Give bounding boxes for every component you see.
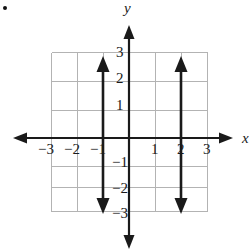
series-1-arrow-up-icon xyxy=(97,56,110,72)
y-tick-label-2: 2 xyxy=(116,71,124,86)
y-tick-label-1: 1 xyxy=(116,98,124,113)
x-tick-label-neg2: −2 xyxy=(64,142,80,157)
y-axis-label: y xyxy=(124,1,131,16)
x-axis-arrow-left-icon xyxy=(13,133,27,144)
y-tick-label-3: 3 xyxy=(116,45,124,60)
series-2-arrow-up-icon xyxy=(175,56,188,72)
x-axis-arrow-right-icon xyxy=(219,133,233,144)
x-tick-label-2: 2 xyxy=(177,142,185,157)
x-tick-label-neg3: −3 xyxy=(38,142,54,157)
series-line-x-equals-negative-1 xyxy=(97,56,110,214)
y-tick-label-neg1: −1 xyxy=(112,155,128,170)
x-tick-label-neg1: −1 xyxy=(90,142,106,157)
graph-figure: y x −3 −2 −1 1 2 3 3 2 1 −1 −2 −3 xyxy=(0,0,250,252)
series-line-x-equals-2 xyxy=(175,56,188,214)
y-tick-label-neg3: −3 xyxy=(112,206,128,221)
x-tick-label-3: 3 xyxy=(203,142,211,157)
y-axis-arrow-up-icon xyxy=(124,25,135,39)
y-axis-arrow-down-icon xyxy=(124,235,135,249)
y-tick-label-neg2: −2 xyxy=(112,181,128,196)
x-axis-label: x xyxy=(242,131,249,146)
x-tick-label-1: 1 xyxy=(151,142,159,157)
